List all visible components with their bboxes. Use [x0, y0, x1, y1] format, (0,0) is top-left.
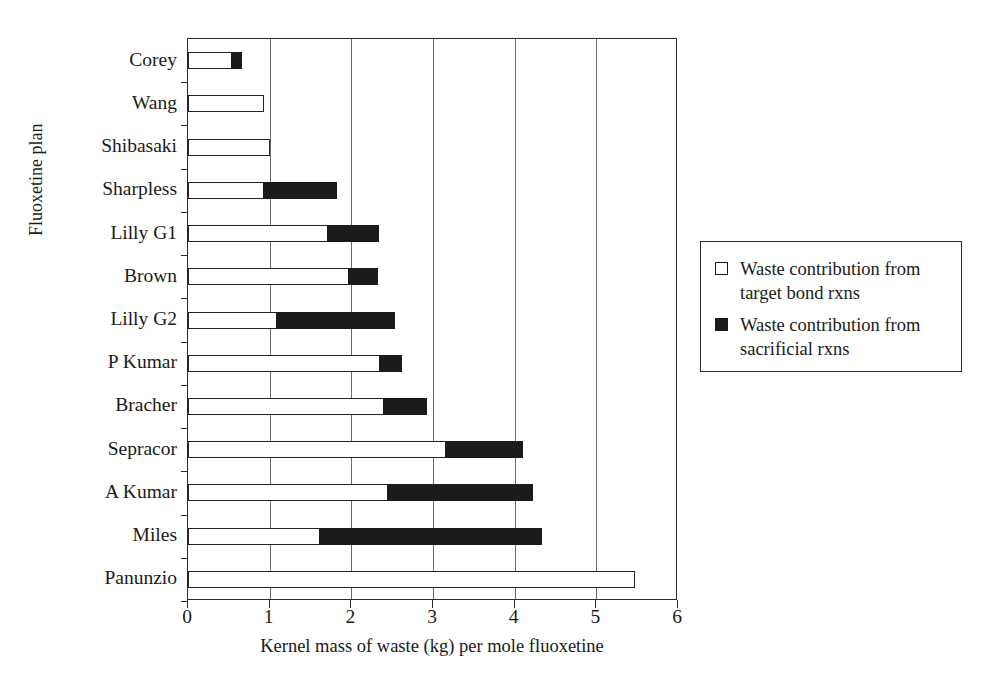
y-axis-tick [181, 558, 188, 559]
y-axis-label-wang: Wang [7, 93, 177, 113]
bar-segment-sacrificial [231, 52, 242, 69]
y-axis-tick [181, 125, 188, 126]
y-axis-label-shibasaki: Shibasaki [7, 136, 177, 156]
bar-sepracor[interactable] [188, 441, 523, 458]
x-axis-tick-label: 5 [575, 606, 615, 628]
bar-brown[interactable] [188, 268, 378, 285]
legend-swatch-open-icon [715, 262, 728, 275]
bar-p-kumar[interactable] [188, 355, 402, 372]
bar-bracher[interactable] [188, 398, 427, 415]
y-axis-label-miles: Miles [7, 525, 177, 545]
bar-segment-sacrificial [379, 355, 402, 372]
bar-segment-target-bond [188, 398, 384, 415]
y-axis-label-sharpless: Sharpless [7, 179, 177, 199]
bar-segment-target-bond [188, 225, 328, 242]
gridline [596, 39, 597, 599]
bar-segment-sacrificial [387, 484, 533, 501]
legend-label: Waste contribution from sacrificial rxns [740, 313, 945, 361]
bar-miles[interactable] [188, 528, 542, 545]
bar-segment-target-bond [188, 571, 635, 588]
x-axis-tick-label: 1 [249, 606, 289, 628]
y-axis-label-corey: Corey [7, 50, 177, 70]
y-axis-label-panunzio: Panunzio [7, 568, 177, 588]
bar-segment-target-bond [188, 312, 278, 329]
bar-segment-target-bond [188, 484, 388, 501]
y-axis-tick [181, 471, 188, 472]
bar-corey[interactable] [188, 52, 242, 69]
bar-segment-target-bond [188, 139, 270, 156]
bar-segment-target-bond [188, 355, 381, 372]
y-axis-tick [181, 428, 188, 429]
legend-swatch-solid-icon [715, 318, 728, 331]
y-axis-label-bracher: Bracher [7, 395, 177, 415]
bar-segment-target-bond [188, 95, 264, 112]
gridline [515, 39, 516, 599]
x-axis-title: Kernel mass of waste (kg) per mole fluox… [187, 636, 677, 657]
y-axis-label-brown: Brown [7, 266, 177, 286]
legend-entry-sacrificial[interactable]: Waste contribution from sacrificial rxns [715, 313, 945, 361]
y-axis-label-lilly-g1: Lilly G1 [7, 223, 177, 243]
bar-segment-sacrificial [263, 182, 337, 199]
y-axis-label-sepracor: Sepracor [7, 439, 177, 459]
bar-segment-target-bond [188, 528, 320, 545]
bar-segment-target-bond [188, 182, 265, 199]
bar-lilly-g2[interactable] [188, 312, 395, 329]
bar-segment-sacrificial [348, 268, 378, 285]
bar-segment-sacrificial [383, 398, 428, 415]
y-axis-tick [181, 255, 188, 256]
bar-a-kumar[interactable] [188, 484, 533, 501]
y-axis-tick [181, 298, 188, 299]
bar-segment-sacrificial [445, 441, 523, 458]
bar-sharpless[interactable] [188, 182, 337, 199]
bar-segment-target-bond [188, 268, 350, 285]
bar-lilly-g1[interactable] [188, 225, 379, 242]
y-axis-tick [181, 385, 188, 386]
legend-label: Waste contribution from target bond rxns [740, 257, 945, 305]
bar-segment-sacrificial [327, 225, 379, 242]
y-axis-label-lilly-g2: Lilly G2 [7, 309, 177, 329]
bar-segment-target-bond [188, 52, 232, 69]
y-axis-tick [181, 212, 188, 213]
plot-area [187, 38, 677, 600]
x-axis-tick-label: 0 [167, 606, 207, 628]
bar-segment-sacrificial [319, 528, 542, 545]
legend-entry-target-bond[interactable]: Waste contribution from target bond rxns [715, 257, 945, 305]
bar-shibasaki[interactable] [188, 139, 270, 156]
y-axis-tick [181, 342, 188, 343]
y-axis-label-p-kumar: P Kumar [7, 352, 177, 372]
y-axis-tick [181, 169, 188, 170]
bar-segment-target-bond [188, 441, 446, 458]
x-axis-tick-label: 3 [412, 606, 452, 628]
y-axis-label-a-kumar: A Kumar [7, 482, 177, 502]
y-axis-tick [181, 82, 188, 83]
chart-legend: Waste contribution from target bond rxns… [700, 241, 962, 372]
bar-panunzio[interactable] [188, 571, 635, 588]
y-axis-tick [181, 515, 188, 516]
x-axis-tick-label: 6 [657, 606, 697, 628]
x-axis-tick-label: 2 [330, 606, 370, 628]
chart-figure: Fluoxetine plan CoreyWangShibasakiSharpl… [0, 0, 1004, 673]
gridline [433, 39, 434, 599]
x-axis-tick-label: 4 [494, 606, 534, 628]
bar-segment-sacrificial [276, 312, 395, 329]
bar-wang[interactable] [188, 95, 264, 112]
